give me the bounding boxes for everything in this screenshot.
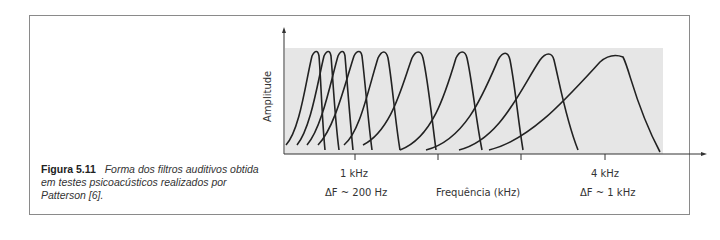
figure-caption: Figura 5.11 Forma dos filtros auditivos …: [41, 163, 271, 202]
x-axis-label: Frequência (kHz): [436, 187, 520, 198]
tick-bandwidth-1khz: ΔF ~ 200 Hz: [325, 187, 387, 198]
y-axis-label: Amplitude: [262, 71, 273, 122]
tick-bandwidth-4khz: ΔF ~ 1 kHz: [580, 187, 635, 198]
x-axis-arrow-icon: [701, 152, 707, 156]
tick-label-1khz: 1 kHz: [340, 168, 368, 179]
x-ticks: [355, 154, 605, 160]
y-axis-arrow-icon: [282, 27, 286, 33]
figure-number: Figura 5.11: [41, 163, 96, 175]
tick-label-4khz: 4 kHz: [591, 168, 619, 179]
